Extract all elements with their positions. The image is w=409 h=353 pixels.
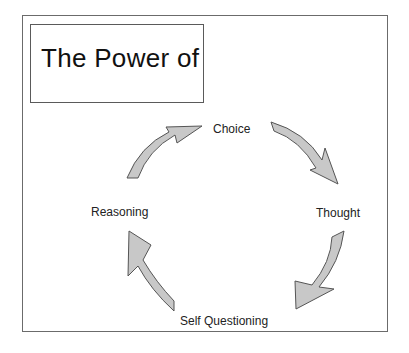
arrow-thought-to-self-questioning (295, 231, 344, 309)
arrow-reasoning-to-choice (127, 126, 202, 178)
cycle-arrows (0, 0, 409, 353)
arrow-choice-to-thought (271, 122, 338, 184)
arrow-self-questioning-to-reasoning (128, 231, 174, 311)
